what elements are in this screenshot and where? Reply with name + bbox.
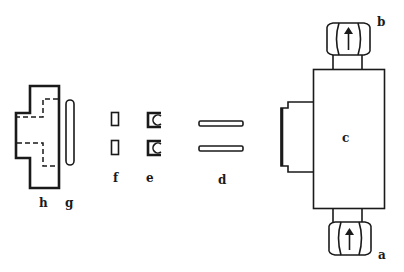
label-h: h xyxy=(39,196,48,210)
part-c xyxy=(281,70,385,209)
part-g xyxy=(66,100,74,165)
part-h xyxy=(16,86,59,188)
assembly-diagram: h g f e d c b a xyxy=(0,0,404,272)
label-f: f xyxy=(113,171,119,185)
label-a: a xyxy=(378,248,386,262)
part-d xyxy=(199,121,243,151)
label-d: d xyxy=(218,173,227,187)
part-b xyxy=(327,23,370,69)
label-c: c xyxy=(342,131,349,145)
arrow-up-icon xyxy=(344,27,353,50)
label-e: e xyxy=(146,171,154,185)
label-b: b xyxy=(377,15,385,29)
arrow-up-icon xyxy=(345,228,354,250)
part-f xyxy=(112,113,119,155)
part-a xyxy=(329,208,371,255)
label-g: g xyxy=(65,196,74,210)
part-e xyxy=(148,113,161,155)
